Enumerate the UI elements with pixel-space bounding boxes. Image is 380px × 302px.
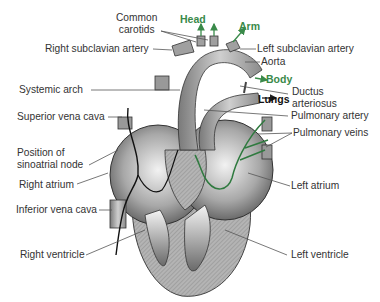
flow-label-head: Head xyxy=(180,13,206,25)
flow-label-body: Body xyxy=(266,73,292,85)
flow-label-lungs: Lungs xyxy=(258,93,290,105)
label-right-ventricle: Right ventricle xyxy=(20,249,85,261)
label-line: arteriosus xyxy=(292,98,337,110)
label-pulmonary-artery: Pulmonary artery xyxy=(291,110,369,122)
label-systemic-arch: Systemic arch xyxy=(19,84,83,96)
label-common-carotids: Common carotids xyxy=(116,12,157,36)
label-right-atrium: Right atrium xyxy=(19,179,74,191)
label-line: sinoatrial node xyxy=(17,159,83,171)
label-line: carotids xyxy=(116,24,157,36)
label-sinoatrial-node: Position of sinoatrial node xyxy=(17,147,83,171)
label-line: Ductus xyxy=(292,86,337,98)
label-inferior-vena-cava: Inferior vena cava xyxy=(16,204,97,216)
label-aorta: Aorta xyxy=(261,56,285,68)
label-left-ventricle: Left ventricle xyxy=(291,249,349,261)
label-left-subclavian-artery: Left subclavian artery xyxy=(257,43,354,55)
label-ductus-arteriosus: Ductus arteriosus xyxy=(292,86,337,110)
flow-label-arm: Arm xyxy=(239,20,260,32)
label-pulmonary-veins: Pulmonary veins xyxy=(293,127,368,139)
label-right-subclavian-artery: Right subclavian artery xyxy=(45,43,149,55)
label-line: Common xyxy=(116,12,157,24)
heart-diagram: Common carotids Right subclavian artery … xyxy=(0,0,380,302)
label-left-atrium: Left atrium xyxy=(291,180,339,192)
label-superior-vena-cava: Superior vena cava xyxy=(17,111,105,123)
label-line: Position of xyxy=(17,147,83,159)
